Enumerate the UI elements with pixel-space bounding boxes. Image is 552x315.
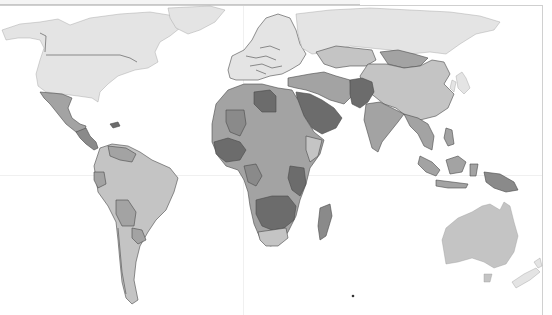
- region-russia: [296, 8, 500, 54]
- region-mexico: [40, 92, 86, 134]
- region-australia: [442, 202, 518, 268]
- region-europe: [228, 14, 306, 80]
- region-papua-new-guinea: [484, 172, 518, 192]
- region-kazakhstan: [316, 46, 376, 68]
- region-new-zealand: [512, 258, 542, 288]
- region-tasmania: [484, 274, 492, 282]
- region-japan-korea: [450, 72, 470, 94]
- island-dot: [352, 295, 355, 298]
- world-map: [0, 0, 552, 315]
- region-north-america: [2, 6, 225, 102]
- region-south-america: [94, 144, 178, 304]
- region-central-america: [76, 128, 98, 150]
- region-southeast-asia: [404, 114, 434, 150]
- region-caribbean: [110, 122, 120, 128]
- region-madagascar: [318, 204, 332, 240]
